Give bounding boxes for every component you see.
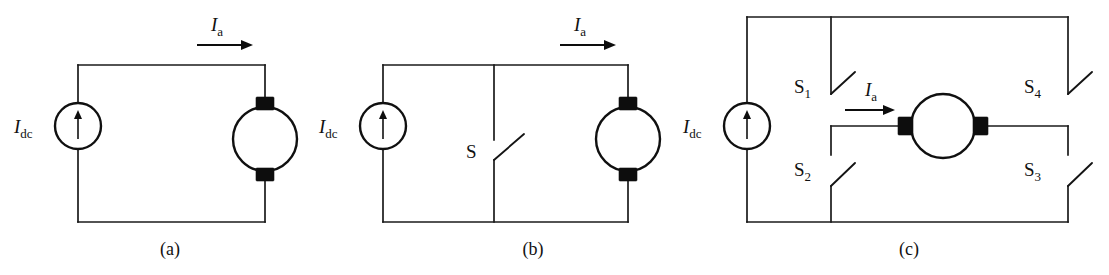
panel-c: Idc S1 S2 S4 S3 <box>682 17 1092 260</box>
current-source-a <box>55 103 101 149</box>
caption-a: (a) <box>160 239 180 260</box>
motor-circle-a <box>233 107 297 171</box>
switch-blade-s3[interactable] <box>1068 163 1092 186</box>
arrow-head-c <box>883 105 895 115</box>
caption-c: (c) <box>899 239 919 260</box>
switch-s1[interactable] <box>831 72 855 94</box>
switch-s3[interactable] <box>1068 163 1092 186</box>
armature-current-label-b: Ia <box>573 14 586 39</box>
switch-label-s2: S2 <box>794 159 811 184</box>
source-label-a: Idc <box>13 116 33 141</box>
motor-circle-c <box>911 94 975 158</box>
panel-b: Idc S Ia (b) <box>318 14 660 260</box>
switch-blade-s2[interactable] <box>831 163 855 186</box>
caption-b: (b) <box>523 239 544 260</box>
dc-motor-a <box>233 97 297 181</box>
motor-brush-bottom-a <box>256 168 274 181</box>
switch-blade-b[interactable] <box>494 134 524 160</box>
panel-b-wires <box>383 65 628 222</box>
source-label-b: Idc <box>318 116 338 141</box>
switch-label-s1: S1 <box>794 76 811 101</box>
panel-a: Idc Ia (a) <box>13 14 297 260</box>
motor-brush-right-c <box>973 117 988 135</box>
switch-label-s3: S3 <box>1024 159 1041 184</box>
dc-motor-c <box>898 94 988 158</box>
armature-current-label-c: Ia <box>864 79 877 104</box>
arrow-head-a <box>241 40 253 50</box>
circuit-diagram-svg: Idc Ia (a) <box>0 0 1109 275</box>
switch-s4[interactable] <box>1068 72 1092 94</box>
switch-blade-s1[interactable] <box>831 72 855 94</box>
switch-label-s4: S4 <box>1024 76 1042 101</box>
current-source-c <box>724 103 770 149</box>
armature-current-arrow-b <box>560 40 616 50</box>
switch-label-b: S <box>466 141 477 162</box>
armature-current-arrow-c <box>845 105 895 115</box>
armature-current-arrow-a <box>197 40 253 50</box>
arrow-head-b <box>604 40 616 50</box>
motor-brush-top-b <box>619 97 637 110</box>
dc-motor-b <box>596 97 660 181</box>
armature-current-label-a: Ia <box>210 14 223 39</box>
switch-s2[interactable] <box>831 163 855 186</box>
motor-circle-b <box>596 107 660 171</box>
switch-blade-s4[interactable] <box>1068 72 1092 94</box>
motor-brush-top-a <box>256 97 274 110</box>
current-source-b <box>360 103 406 149</box>
switch-s-b[interactable] <box>494 134 524 160</box>
motor-brush-left-c <box>898 117 913 135</box>
figure-container: Idc Ia (a) <box>0 0 1109 275</box>
motor-brush-bottom-b <box>619 168 637 181</box>
source-label-c: Idc <box>682 116 702 141</box>
